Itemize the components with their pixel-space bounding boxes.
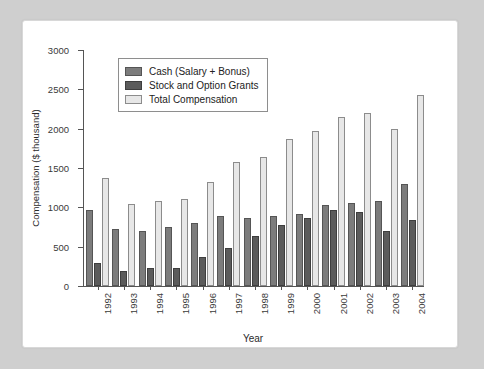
x-tick-label-2000: 2000	[311, 293, 322, 314]
bar-cash-1996	[191, 223, 198, 286]
y-tick-label: 1500	[48, 163, 69, 174]
legend-item-cash: Cash (Salary + Bonus)	[125, 64, 259, 78]
x-tick-label-1997: 1997	[233, 293, 244, 314]
legend-swatch-icon-cash	[125, 67, 142, 76]
x-tick	[176, 286, 177, 290]
x-tick	[307, 286, 308, 290]
bar-cash-1997	[217, 216, 224, 286]
x-tick-label-1995: 1995	[180, 293, 191, 314]
x-tick	[229, 286, 230, 290]
bar-stock-2001	[330, 210, 337, 286]
x-tick-label-2001: 2001	[338, 293, 349, 314]
bar-cash-2001	[322, 205, 329, 286]
chart-legend: Cash (Salary + Bonus)Stock and Option Gr…	[118, 58, 268, 112]
x-tick	[412, 286, 413, 290]
x-tick-label-2003: 2003	[390, 293, 401, 314]
bar-total-1994	[155, 201, 162, 286]
x-axis-line	[83, 286, 424, 287]
bar-group	[401, 50, 424, 286]
x-tick	[150, 286, 151, 290]
bar-total-1993	[128, 204, 135, 286]
bar-total-1996	[207, 182, 214, 286]
bar-stock-1994	[147, 268, 154, 286]
y-tick: 2500	[78, 89, 83, 90]
bar-cash-1992	[86, 210, 93, 286]
bar-total-2000	[312, 131, 319, 286]
bar-total-1997	[233, 162, 240, 286]
legend-label: Cash (Salary + Bonus)	[149, 66, 250, 77]
legend-swatch-icon-total	[125, 95, 142, 104]
y-axis-title: Compensation ($ thousand)	[30, 109, 41, 226]
x-tick-label-1998: 1998	[259, 293, 270, 314]
bar-group	[270, 50, 293, 286]
bar-total-2003	[391, 129, 398, 286]
bar-cash-2002	[348, 203, 355, 286]
legend-swatch-icon-stock	[125, 81, 142, 90]
bar-total-2004	[417, 95, 424, 286]
y-tick: 3000	[78, 50, 83, 51]
bar-cash-1993	[112, 229, 119, 286]
bar-stock-2002	[356, 212, 363, 286]
y-tick-label: 500	[53, 241, 69, 252]
bar-total-1998	[260, 157, 267, 286]
x-tick-label-1994: 1994	[154, 293, 165, 314]
legend-item-stock: Stock and Option Grants	[125, 78, 259, 92]
bar-total-2002	[364, 113, 371, 286]
y-tick-label: 1000	[48, 202, 69, 213]
y-tick-label: 2500	[48, 84, 69, 95]
x-tick	[386, 286, 387, 290]
bar-group	[348, 50, 371, 286]
bar-cash-1999	[270, 216, 277, 286]
x-tick	[255, 286, 256, 290]
x-tick	[334, 286, 335, 290]
bar-stock-1993	[120, 271, 127, 286]
y-tick: 0	[78, 286, 83, 287]
x-tick-label-1996: 1996	[207, 293, 218, 314]
x-tick	[124, 286, 125, 290]
bar-cash-2000	[296, 214, 303, 286]
x-tick	[281, 286, 282, 290]
bar-cash-2003	[375, 201, 382, 286]
bar-stock-2004	[409, 220, 416, 286]
y-tick-label: 3000	[48, 45, 69, 56]
y-tick: 2000	[78, 129, 83, 130]
y-tick-label: 2000	[48, 123, 69, 134]
bar-cash-1998	[244, 218, 251, 286]
bar-stock-2000	[304, 218, 311, 286]
bar-total-1992	[102, 178, 109, 286]
x-tick-label-1992: 1992	[102, 293, 113, 314]
bar-stock-1996	[199, 257, 206, 286]
x-tick-label-2004: 2004	[416, 293, 427, 314]
bar-cash-2004	[401, 184, 408, 286]
bar-group	[322, 50, 345, 286]
bar-group	[375, 50, 398, 286]
bar-stock-1997	[225, 248, 232, 286]
y-tick: 500	[78, 247, 83, 248]
bar-total-1999	[286, 139, 293, 286]
bar-cash-1995	[165, 227, 172, 286]
legend-label: Total Compensation	[149, 94, 237, 105]
y-tick: 1000	[78, 207, 83, 208]
x-tick-label-1999: 1999	[285, 293, 296, 314]
bar-total-2001	[338, 117, 345, 286]
x-tick-label-2002: 2002	[364, 293, 375, 314]
x-tick	[360, 286, 361, 290]
chart-plot-area: 050010001500200025003000 199219931994199…	[83, 50, 424, 286]
bar-group	[296, 50, 319, 286]
bar-stock-1998	[252, 236, 259, 286]
x-tick	[203, 286, 204, 290]
legend-item-total: Total Compensation	[125, 92, 259, 106]
x-axis-title: Year	[243, 333, 263, 344]
chart-figure-panel: 050010001500200025003000 199219931994199…	[22, 20, 458, 348]
bar-stock-1995	[173, 268, 180, 286]
x-tick-label-1993: 1993	[128, 293, 139, 314]
bar-group	[86, 50, 109, 286]
x-tick	[98, 286, 99, 290]
bar-stock-2003	[383, 231, 390, 286]
y-axis-line	[83, 50, 84, 286]
bar-stock-1992	[94, 263, 101, 286]
bar-total-1995	[181, 199, 188, 286]
bar-cash-1994	[139, 231, 146, 286]
bar-stock-1999	[278, 225, 285, 286]
y-tick: 1500	[78, 168, 83, 169]
